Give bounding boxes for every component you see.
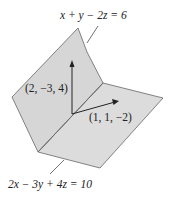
normal-horizontal-label: (1, 1, −2) — [89, 111, 132, 123]
leader-line-top — [87, 26, 98, 43]
leader-line-bottom — [50, 160, 64, 174]
plane-top-equation: x + y − 2z = 6 — [60, 9, 127, 21]
planes-diagram — [0, 0, 175, 203]
plane-bottom-equation: 2x − 3y + 4z = 10 — [8, 178, 92, 190]
normal-vertical-label: (2, −3, 4) — [25, 82, 68, 94]
